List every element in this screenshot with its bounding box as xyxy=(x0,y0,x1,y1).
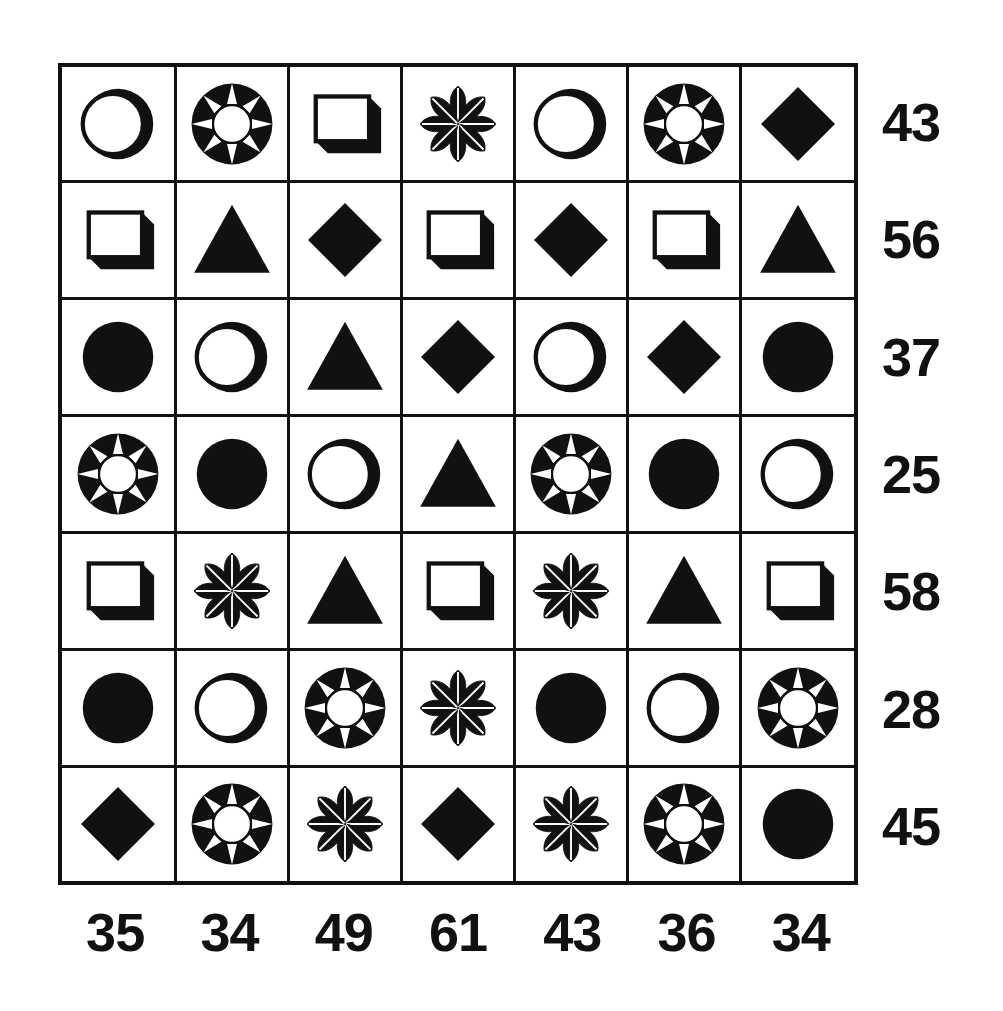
grid-row xyxy=(62,67,854,182)
grid-cell[interactable] xyxy=(175,766,288,881)
ring-circle-icon xyxy=(755,431,841,517)
cell-shape xyxy=(62,300,174,414)
grid-row xyxy=(62,416,854,533)
grid-cell[interactable] xyxy=(175,416,288,533)
grid-cell[interactable] xyxy=(401,416,514,533)
filled-circle-icon xyxy=(641,431,727,517)
flower-icon xyxy=(415,81,501,167)
grid-cell[interactable] xyxy=(62,182,175,299)
cell-shape xyxy=(62,417,174,531)
column-total-value: 61 xyxy=(401,893,515,971)
grid-row xyxy=(62,299,854,416)
cell-shape xyxy=(516,300,626,414)
sun-burst-icon xyxy=(755,665,841,751)
grid-cell[interactable] xyxy=(288,416,401,533)
row-total-value: 45 xyxy=(868,768,993,885)
grid-cell[interactable] xyxy=(62,299,175,416)
grid-cell[interactable] xyxy=(288,649,401,766)
grid-cell[interactable] xyxy=(628,532,741,649)
cell-shape xyxy=(629,67,739,180)
cell-shape xyxy=(177,67,287,180)
cell-shape xyxy=(629,768,739,881)
cell-shape xyxy=(742,300,854,414)
cell-shape xyxy=(742,768,854,881)
row-total-value: 56 xyxy=(868,180,993,297)
cell-shape xyxy=(177,183,287,297)
grid-cell[interactable] xyxy=(515,649,628,766)
grid-cell[interactable] xyxy=(175,532,288,649)
filled-circle-icon xyxy=(755,781,841,867)
grid-cell[interactable] xyxy=(288,766,401,881)
cell-shape xyxy=(177,534,287,648)
grid-cell[interactable] xyxy=(628,299,741,416)
cell-shape xyxy=(629,651,739,765)
cell-shape xyxy=(742,183,854,297)
grid-cell[interactable] xyxy=(288,532,401,649)
grid-cell[interactable] xyxy=(62,532,175,649)
grid-cell[interactable] xyxy=(288,299,401,416)
grid-cell[interactable] xyxy=(62,67,175,182)
grid-cell[interactable] xyxy=(741,67,854,182)
filled-diamond-icon xyxy=(415,314,501,400)
sun-burst-icon xyxy=(189,81,275,167)
filled-circle-icon xyxy=(75,665,161,751)
cell-shape xyxy=(516,183,626,297)
row-total-value: 28 xyxy=(868,650,993,767)
grid-cell[interactable] xyxy=(401,67,514,182)
ring-circle-icon xyxy=(302,431,388,517)
grid-cell[interactable] xyxy=(628,182,741,299)
grid-cell[interactable] xyxy=(288,182,401,299)
filled-diamond-icon xyxy=(302,197,388,283)
cell-shape xyxy=(177,300,287,414)
grid-row xyxy=(62,766,854,881)
filled-triangle-icon xyxy=(415,431,501,517)
grid-cell[interactable] xyxy=(515,67,628,182)
grid-cell[interactable] xyxy=(515,416,628,533)
grid-cell[interactable] xyxy=(401,182,514,299)
grid-cell[interactable] xyxy=(401,766,514,881)
grid-cell[interactable] xyxy=(741,416,854,533)
grid-cell[interactable] xyxy=(741,182,854,299)
grid-cell[interactable] xyxy=(628,416,741,533)
row-totals-column: 43563725582845 xyxy=(868,63,993,885)
cell-shape xyxy=(177,768,287,881)
grid-cell[interactable] xyxy=(515,532,628,649)
shape-grid-table xyxy=(62,67,854,881)
grid-cell[interactable] xyxy=(515,299,628,416)
grid-cell[interactable] xyxy=(741,299,854,416)
filled-triangle-icon xyxy=(302,548,388,634)
filled-diamond-icon xyxy=(528,197,614,283)
grid-cell[interactable] xyxy=(741,649,854,766)
cell-shape xyxy=(290,534,400,648)
sun-burst-icon xyxy=(641,781,727,867)
shadowed-square-icon xyxy=(415,548,501,634)
grid-cell[interactable] xyxy=(175,67,288,182)
filled-diamond-icon xyxy=(641,314,727,400)
column-total-value: 34 xyxy=(744,893,858,971)
grid-cell[interactable] xyxy=(401,299,514,416)
grid-cell[interactable] xyxy=(741,766,854,881)
ring-circle-icon xyxy=(75,81,161,167)
grid-cell[interactable] xyxy=(175,649,288,766)
grid-cell[interactable] xyxy=(62,766,175,881)
filled-triangle-icon xyxy=(755,197,841,283)
grid-cell[interactable] xyxy=(628,67,741,182)
grid-cell[interactable] xyxy=(628,649,741,766)
grid-cell[interactable] xyxy=(401,532,514,649)
grid-cell[interactable] xyxy=(741,532,854,649)
ring-circle-icon xyxy=(189,665,275,751)
cell-shape xyxy=(177,417,287,531)
grid-cell[interactable] xyxy=(401,649,514,766)
grid-cell[interactable] xyxy=(62,416,175,533)
grid-cell[interactable] xyxy=(62,649,175,766)
grid-cell[interactable] xyxy=(515,182,628,299)
grid-cell[interactable] xyxy=(515,766,628,881)
grid-cell[interactable] xyxy=(288,67,401,182)
grid-cell[interactable] xyxy=(175,182,288,299)
ring-circle-icon xyxy=(641,665,727,751)
grid-cell[interactable] xyxy=(175,299,288,416)
column-total-value: 43 xyxy=(515,893,629,971)
cell-shape xyxy=(516,651,626,765)
grid-cell[interactable] xyxy=(628,766,741,881)
filled-circle-icon xyxy=(755,314,841,400)
